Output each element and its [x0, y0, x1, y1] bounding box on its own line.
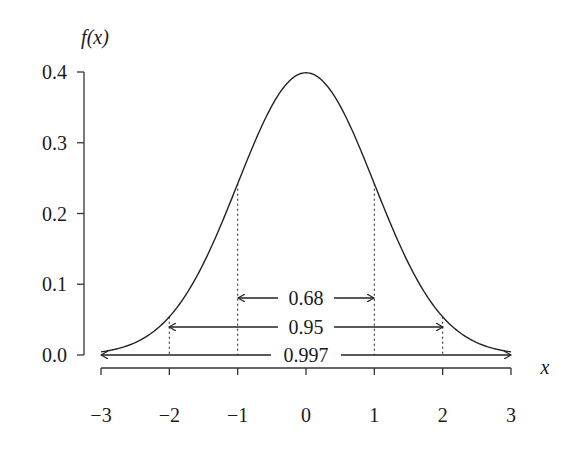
span-95: 0.95 — [169, 316, 443, 338]
span-68: 0.68 — [238, 287, 374, 309]
x-axis-title: x — [540, 356, 550, 378]
x-tick-label: 1 — [369, 404, 379, 426]
x-tick-label: −3 — [90, 404, 111, 426]
y-tick-label: 0.1 — [42, 273, 67, 295]
x-tick-label: 3 — [506, 404, 516, 426]
x-tick-label: 0 — [301, 404, 311, 426]
normal-distribution-chart: f(x) 0.00.10.20.30.4 −3−2−10123 x 0.68 0… — [0, 0, 580, 449]
y-tick-label: 0.0 — [42, 344, 67, 366]
y-axis: 0.00.10.20.30.4 — [42, 61, 84, 366]
span-997: 0.997 — [101, 344, 511, 366]
x-tick-label: −2 — [159, 404, 180, 426]
y-tick-label: 0.3 — [42, 132, 67, 154]
span-997-label: 0.997 — [284, 344, 329, 366]
x-tick-label: 2 — [438, 404, 448, 426]
x-tick-label: −1 — [227, 404, 248, 426]
y-tick-label: 0.4 — [42, 61, 67, 83]
span-95-label: 0.95 — [289, 316, 324, 338]
x-axis: −3−2−10123 — [90, 368, 516, 426]
y-axis-title: f(x) — [81, 26, 109, 49]
span-68-label: 0.68 — [289, 287, 324, 309]
y-tick-label: 0.2 — [42, 203, 67, 225]
density-curve — [101, 73, 511, 352]
